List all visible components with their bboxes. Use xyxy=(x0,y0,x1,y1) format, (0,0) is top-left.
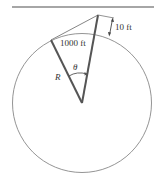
dimension-extension-top xyxy=(98,15,114,18)
height-label: 10 ft xyxy=(115,22,132,32)
earth-curvature-diagram: 1000 ft 10 ft θ R xyxy=(0,0,154,183)
angle-label: θ xyxy=(73,62,78,72)
radius-label: R xyxy=(54,72,61,82)
tangent-line xyxy=(51,15,98,40)
radius-right-extended xyxy=(82,15,98,103)
angle-arc xyxy=(69,73,87,76)
arrowhead-bottom xyxy=(108,32,111,37)
arc-length-label: 1000 ft xyxy=(60,38,86,48)
